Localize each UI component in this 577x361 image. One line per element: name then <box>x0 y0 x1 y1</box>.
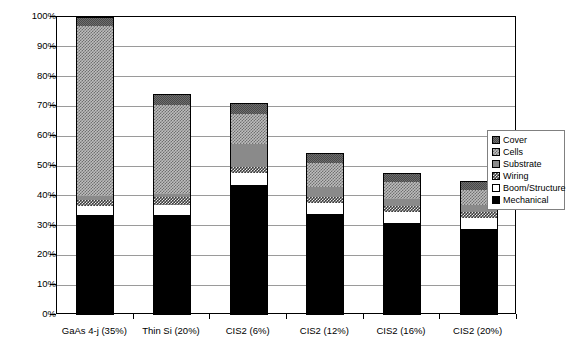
segment-cells <box>306 163 344 187</box>
legend-item-label: Wiring <box>503 172 529 181</box>
y-axis-tick-label: 90% <box>8 41 56 50</box>
cells-swatch-icon <box>492 148 500 156</box>
segment-wiring <box>460 212 498 218</box>
segment-mechanical <box>460 229 498 315</box>
x-axis-tick <box>133 314 134 319</box>
stacked-bar-chart: CoverCellsSubstrateWiringBoom/StructureM… <box>0 0 577 361</box>
legend-item-label: Substrate <box>503 160 542 169</box>
y-axis-tick-label: 50% <box>8 160 56 169</box>
segment-substrate <box>230 144 268 168</box>
gridline <box>57 166 515 167</box>
plot-area <box>56 16 516 314</box>
segment-boom <box>230 173 268 185</box>
segment-boom <box>460 218 498 228</box>
y-axis-tick-label: 30% <box>8 220 56 229</box>
segment-boom <box>383 212 421 222</box>
gridline <box>57 136 515 137</box>
y-axis-tick-label: 60% <box>8 130 56 139</box>
segment-cells <box>383 182 421 198</box>
y-axis-tick-label: 100% <box>8 11 56 20</box>
cover-swatch-icon <box>492 136 500 144</box>
segment-cells <box>153 105 191 194</box>
x-axis-tick <box>209 314 210 319</box>
x-axis-tick <box>439 314 440 319</box>
x-axis-tick <box>363 314 364 319</box>
y-axis-tick-label: 0% <box>8 309 56 318</box>
bar-2 <box>153 94 191 315</box>
segment-substrate <box>76 196 114 200</box>
legend-item-label: Cover <box>503 136 527 145</box>
segment-boom <box>76 206 114 215</box>
segment-mechanical <box>230 185 268 315</box>
gridline <box>57 46 515 47</box>
bar-1 <box>76 17 114 315</box>
gridline <box>57 106 515 107</box>
segment-substrate <box>153 194 191 197</box>
legend-item-label: Cells <box>503 148 523 157</box>
bar-3 <box>230 103 268 315</box>
y-axis-tick-label: 20% <box>8 249 56 258</box>
legend-item-label: Boom/Structure <box>503 184 566 193</box>
x-axis-category-label: GaAs 4-j (35%) <box>56 325 133 336</box>
gridline <box>57 255 515 256</box>
y-axis-tick-label: 70% <box>8 100 56 109</box>
bar-4 <box>306 153 344 315</box>
segment-boom <box>153 205 191 215</box>
boom-swatch-icon <box>492 184 500 192</box>
segment-mechanical <box>306 214 344 315</box>
mechanical-swatch-icon <box>492 196 500 204</box>
segment-cells <box>230 114 268 144</box>
segment-cover <box>383 173 421 182</box>
segment-wiring <box>306 197 344 203</box>
gridline <box>57 285 515 286</box>
legend-item-label: Mechanical <box>503 196 549 205</box>
segment-cover <box>76 17 114 26</box>
y-axis-tick-label: 40% <box>8 190 56 199</box>
segment-wiring <box>153 197 191 204</box>
gridline <box>57 76 515 77</box>
legend-item[interactable]: Cover <box>492 134 561 146</box>
x-axis-category-label: Thin Si (20%) <box>133 325 210 336</box>
segment-mechanical <box>76 215 114 315</box>
segment-mechanical <box>153 215 191 315</box>
segment-cells <box>76 26 114 196</box>
bar-5 <box>383 173 421 315</box>
wiring-swatch-icon <box>492 172 500 180</box>
y-axis-tick-label: 80% <box>8 71 56 80</box>
x-axis-category-label: CIS2 (6%) <box>209 325 286 336</box>
y-axis-tick-label: 10% <box>8 279 56 288</box>
legend-item[interactable]: Wiring <box>492 170 561 182</box>
segment-wiring <box>76 200 114 206</box>
segment-cover <box>306 153 344 163</box>
x-axis-tick <box>286 314 287 319</box>
segment-substrate <box>383 199 421 206</box>
segment-boom <box>306 203 344 213</box>
legend: CoverCellsSubstrateWiringBoom/StructureM… <box>487 130 565 210</box>
x-axis-category-label: CIS2 (16%) <box>363 325 440 336</box>
legend-item[interactable]: Boom/Structure <box>492 182 561 194</box>
substrate-swatch-icon <box>492 160 500 168</box>
segment-cover <box>230 103 268 113</box>
x-axis-category-label: CIS2 (20%) <box>439 325 516 336</box>
legend-item[interactable]: Substrate <box>492 158 561 170</box>
segment-wiring <box>383 206 421 212</box>
x-axis-category-label: CIS2 (12%) <box>286 325 363 336</box>
segment-mechanical <box>383 223 421 315</box>
x-axis-tick <box>516 314 517 319</box>
segment-substrate <box>306 187 344 197</box>
segment-cover <box>153 94 191 104</box>
legend-item[interactable]: Cells <box>492 146 561 158</box>
gridline <box>57 225 515 226</box>
gridline <box>57 195 515 196</box>
segment-wiring <box>230 167 268 173</box>
legend-item[interactable]: Mechanical <box>492 194 561 206</box>
